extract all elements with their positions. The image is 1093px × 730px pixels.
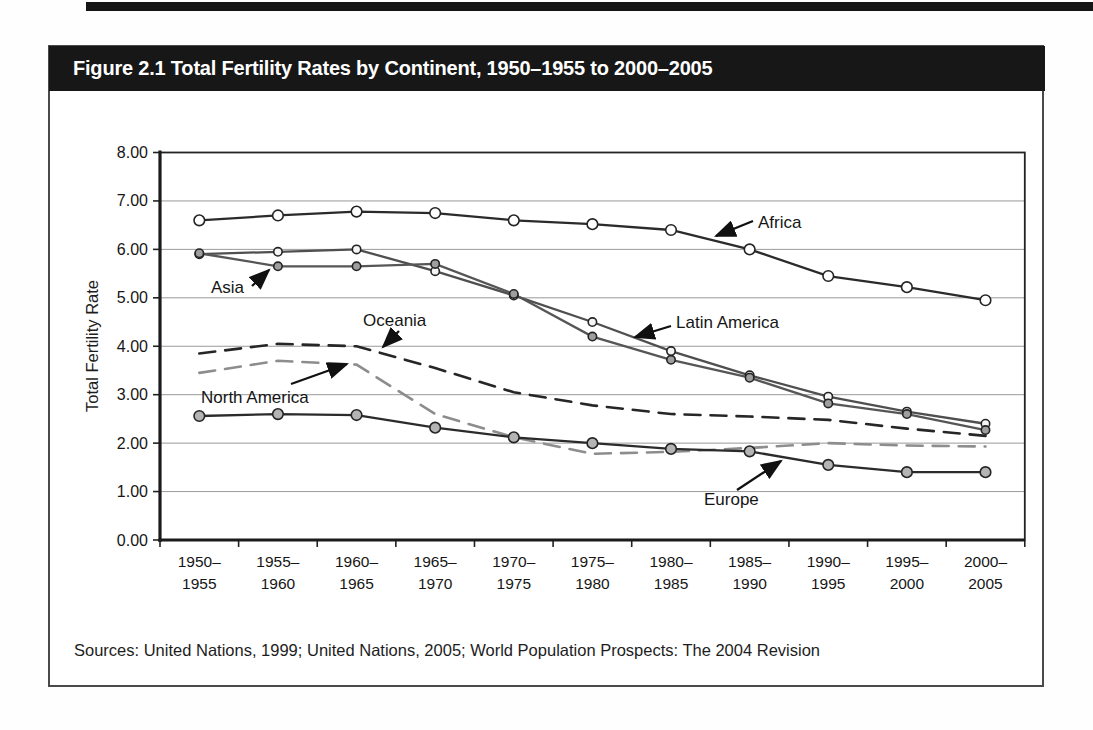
scan-artifact-strip bbox=[86, 2, 1093, 11]
figure-title: Figure 2.1 Total Fertility Rates by Cont… bbox=[49, 57, 712, 80]
figure-box: Figure 2.1 Total Fertility Rates by Cont… bbox=[48, 45, 1044, 687]
figure-title-bar: Figure 2.1 Total Fertility Rates by Cont… bbox=[49, 46, 1045, 91]
sources-note: Sources: United Nations, 1999; United Na… bbox=[74, 641, 820, 660]
scanned-page: Figure 2.1 Total Fertility Rates by Cont… bbox=[0, 0, 1093, 730]
y-axis-title: Total Fertility Rate bbox=[83, 236, 103, 456]
